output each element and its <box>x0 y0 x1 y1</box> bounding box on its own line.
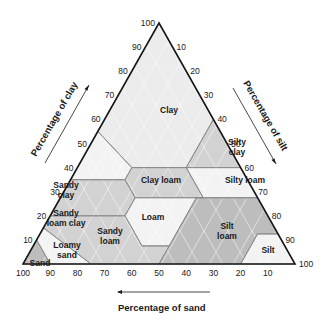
label-silty-loam: Silty loam <box>225 175 266 185</box>
clay-tick: 30 <box>50 187 60 197</box>
sand-tick: 80 <box>73 268 83 278</box>
silt-tick: 80 <box>272 211 282 221</box>
label-sand: Sand <box>30 258 51 268</box>
sand-axis-title-group: Percentage of sand <box>117 290 210 313</box>
sand-tick: 100 <box>16 268 30 278</box>
clay-tick: 10 <box>23 235 33 245</box>
clay-tick: 90 <box>132 42 142 52</box>
sand-tick: 70 <box>100 268 110 278</box>
label-silt: Silt <box>261 245 274 255</box>
sand-tick: 30 <box>209 268 219 278</box>
clay-tick: 60 <box>91 114 101 124</box>
silt-arrow-head-icon <box>272 158 277 164</box>
label-clay: Clay <box>160 105 178 115</box>
label-loam: Loam <box>142 212 165 222</box>
silt-tick: 10 <box>177 42 187 52</box>
clay-tick: 70 <box>105 90 115 100</box>
clay-tick: 40 <box>64 163 74 173</box>
sand-axis-title: Percentage of sand <box>118 302 206 313</box>
label-sandy-loam: Sandyloam <box>97 226 123 246</box>
sand-arrow-head-icon <box>117 290 122 294</box>
clay-tick: 20 <box>37 211 47 221</box>
label-clay-loam: Clay loam <box>141 175 182 185</box>
soil-texture-triangle: ClaySandyclaySiltyclaySandyloam clayClay… <box>0 0 335 326</box>
sand-axis-ticks: 100908070605040302010 <box>16 268 273 278</box>
clay-arrow-head-icon <box>85 85 90 91</box>
clay-tick: 100 <box>141 18 155 28</box>
sand-tick: 40 <box>181 268 191 278</box>
silt-tick: 100 <box>299 259 313 269</box>
sand-tick: 20 <box>236 268 246 278</box>
silt-tick: 50 <box>231 139 241 149</box>
silt-tick: 40 <box>217 114 227 124</box>
silt-tick: 30 <box>204 90 214 100</box>
silt-tick: 60 <box>245 163 255 173</box>
silt-tick: 90 <box>285 235 295 245</box>
sand-tick: 50 <box>154 268 164 278</box>
label-loamy-sand: Loamysand <box>53 240 81 260</box>
sand-tick: 90 <box>45 268 55 278</box>
clay-tick: 50 <box>78 139 88 149</box>
sand-tick: 60 <box>127 268 137 278</box>
clay-axis-title-group: Percentage of clay <box>28 79 89 163</box>
silt-tick: 20 <box>190 66 200 76</box>
clay-tick: 80 <box>118 66 128 76</box>
sand-tick: 10 <box>263 268 273 278</box>
silt-tick: 70 <box>258 187 268 197</box>
